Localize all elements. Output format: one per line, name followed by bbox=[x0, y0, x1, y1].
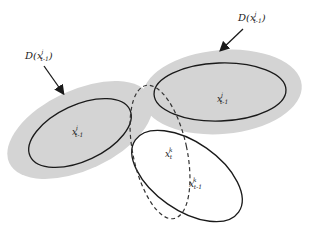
point-label-xk-prev: xkt-1 bbox=[189, 180, 202, 189]
callout-label-right: D(xjt-1) bbox=[238, 13, 266, 23]
point-label-xk-t: xkt bbox=[165, 150, 172, 159]
diagram-graphics bbox=[0, 0, 312, 226]
arrow-right bbox=[221, 29, 243, 50]
point-label-xj: xjt-1 bbox=[217, 95, 228, 104]
callout-label-left: D(xit-1) bbox=[25, 51, 53, 61]
diagram-canvas: D(xit-1) D(xjt-1) xit-1 xjt-1 xkt xkt-1 bbox=[0, 0, 312, 226]
point-label-xi: xit-1 bbox=[72, 128, 83, 137]
arrow-left bbox=[44, 66, 63, 93]
